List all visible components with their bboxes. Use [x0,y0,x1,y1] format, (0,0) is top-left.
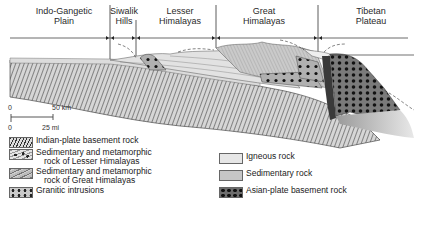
legend-swatch-fine-hatch-icon [9,168,33,179]
legend-label-line2: rock of Lesser Himalayas [36,157,152,166]
scale-bar [11,114,53,122]
legend-swatch-dotted-icon [9,149,33,160]
legend-great-himalayas: Sedimentary and metamorphic rock of Grea… [9,167,152,185]
legend-label: Sedimentary and metamorphic rock of Grea… [36,167,152,185]
asian-plate-basement-dotted [330,54,400,116]
legend-label: Sedimentary rock [246,169,312,178]
scale-mi-end: 25 mi [42,124,59,131]
legend-swatch-hatch-icon [9,137,33,148]
granitic-intrusion-great-2 [296,56,324,82]
legend-label-line2: rock of Great Himalayas [36,176,152,185]
legend-swatch-sedimentary-icon [219,170,243,181]
legend-swatch-asian-icon [219,187,243,198]
legend-swatch-crosses-icon [9,187,33,198]
legend-label: Igneous rock [246,152,295,161]
legend-label: Asian-plate basement rock [246,186,347,195]
legend-label: Granitic intrusions [36,186,104,195]
scale-km-end: 50 km [52,104,71,111]
legend-granitic-intrusions: Granitic intrusions [9,186,104,198]
legend-label: Sedimentary and metamorphic rock of Less… [36,148,152,166]
scale-km-start: 0 [8,104,12,111]
legend-label: Indian-plate basement rock [36,136,139,145]
legend-asian-plate: Asian-plate basement rock [219,186,347,198]
legend-sedimentary-rock: Sedimentary rock [219,169,312,181]
legend-swatch-igneous-icon [219,153,243,164]
scale-mi-start: 0 [8,124,12,131]
legend-igneous-rock: Igneous rock [219,152,295,164]
legend-lesser-himalayas: Sedimentary and metamorphic rock of Less… [9,148,152,166]
